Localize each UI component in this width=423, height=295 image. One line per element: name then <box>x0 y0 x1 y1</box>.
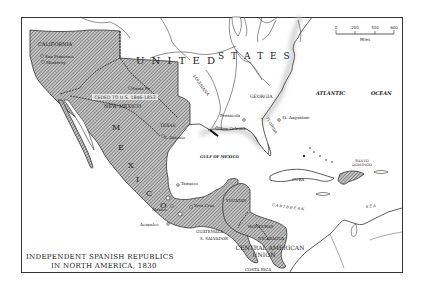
historical-map: 0 200 400 600 Miles U N I T E D S T A T … <box>0 0 423 295</box>
city-san-antonio: S. Antonio <box>164 135 185 140</box>
label-s-salvador: S. SALVADOR <box>200 236 229 241</box>
label-costa-rica: COSTA RICA <box>245 267 271 272</box>
mexico-letter-x: X <box>128 161 134 170</box>
city-san-francisco: San Francisco <box>45 54 74 59</box>
label-california: CALIFORNIA <box>38 41 72 47</box>
scale-unit: Miles <box>360 37 370 42</box>
city-new-orleans: New Orleans <box>219 126 245 131</box>
city-acapulco: Acapulco <box>139 222 159 227</box>
label-states: S T A T E S <box>218 51 292 61</box>
label-gulf-of-mexico: GULF OF MEXICO <box>200 154 239 159</box>
label-nicaragua: NICARAGUA <box>258 236 284 241</box>
label-georgia: GEORGIA <box>250 94 273 99</box>
label-santo-domingo-2: DOMINGO <box>352 163 372 167</box>
mexico-letter-m: M <box>112 123 120 132</box>
city-santa-fe: Santa Fe <box>132 86 151 91</box>
label-texas: TEXAS <box>160 123 176 128</box>
label-new-mexico: NEW MEXICO <box>104 103 141 109</box>
label-guatemala: GUATEMALA <box>196 229 223 234</box>
mexico-letter-i: I <box>136 175 139 184</box>
label-ceded: CEDED TO U.S. 1846-1853 <box>94 95 155 100</box>
mexico-letter-e: E <box>118 143 124 152</box>
city-mexico: Mexico <box>152 207 167 212</box>
label-central-american-union-1: CENTRAL AMERICAN <box>236 244 305 251</box>
label-central-american-union-2: UNION <box>253 251 276 258</box>
scale-tick-600: 600 <box>390 25 398 30</box>
label-honduras: HONDURAS <box>248 224 274 229</box>
map-title-line2: IN NORTH AMERICA, 1830 <box>51 262 157 270</box>
city-st-augustine: St. Augustine <box>282 115 310 120</box>
scale-tick-400: 400 <box>371 25 379 30</box>
puerto-rico-island <box>374 171 388 174</box>
jamaica-island <box>316 193 330 196</box>
label-yucatan: YUCATAN <box>225 198 247 203</box>
mexico-letter-c: C <box>146 189 152 198</box>
city-tampico: Tampico <box>181 181 199 186</box>
scale-tick-0: 0 <box>335 25 338 30</box>
label-cuba: CUBA <box>292 177 304 182</box>
scale-tick-200: 200 <box>351 25 359 30</box>
city-pensacola: Pensacola <box>220 113 241 118</box>
city-vera-cruz: Vera Cruz <box>193 203 214 208</box>
label-united: U N I T E D <box>136 55 217 66</box>
label-atlantic: ATLANTIC <box>315 90 345 96</box>
label-ocean: OCEAN <box>371 90 392 96</box>
city-monterey: Monterey <box>46 60 66 65</box>
map-title-line1: INDEPENDENT SPANISH REPUBLICS <box>26 253 174 261</box>
